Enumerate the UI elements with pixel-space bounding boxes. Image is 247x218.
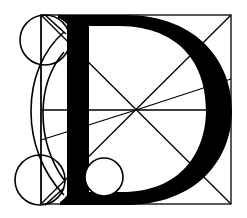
letter-d-construction [0, 0, 247, 218]
counter-circle [85, 158, 123, 196]
